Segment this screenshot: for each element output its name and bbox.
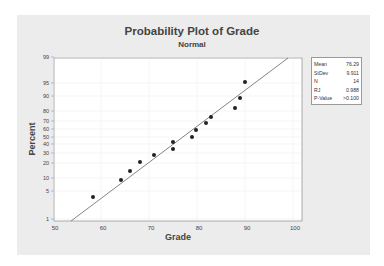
y-axis-ticks: 151020304050607080909599 (43, 54, 54, 222)
legend-row-n: N14 (314, 77, 359, 86)
data-point (152, 153, 156, 157)
x-axis-ticks: 5060708090100 (52, 225, 301, 231)
y-tick-label: 80 (43, 108, 49, 114)
legend-row-mean: Mean76.29 (314, 60, 359, 69)
x-tick-label: 70 (148, 225, 155, 231)
data-point (138, 160, 142, 164)
x-tick-label: 60 (100, 225, 107, 231)
x-tick-label: 90 (244, 225, 251, 231)
probability-plot: 151020304050607080909599 5060708090100 G… (0, 0, 384, 266)
y-tick-label: 10 (43, 175, 49, 181)
x-axis-label: Grade (165, 232, 191, 242)
y-tick-label: 40 (43, 141, 49, 147)
x-tick-label: 100 (290, 225, 301, 231)
data-point (171, 147, 175, 151)
x-tick-label: 80 (196, 225, 203, 231)
stats-legend: Mean76.29 StDev9.911 N14 RJ0.988 P-Value… (311, 57, 362, 105)
y-tick-label: 1 (46, 216, 49, 222)
data-point (128, 169, 132, 173)
y-axis-label: Percent (27, 122, 37, 155)
data-point (119, 178, 123, 182)
legend-row-rj: RJ0.988 (314, 86, 359, 95)
data-point (204, 121, 208, 125)
y-tick-label: 30 (43, 150, 49, 156)
y-tick-label: 5 (46, 188, 49, 194)
y-tick-label: 60 (43, 126, 49, 132)
y-tick-label: 20 (43, 160, 49, 166)
data-point (209, 115, 213, 119)
y-tick-label: 50 (43, 134, 49, 140)
data-point (233, 106, 237, 110)
data-point (190, 135, 194, 139)
x-tick-label: 50 (52, 225, 59, 231)
legend-row-pvalue: P-Value>0.100 (314, 94, 359, 103)
data-point (194, 128, 198, 132)
data-point (91, 195, 95, 199)
data-point (238, 96, 242, 100)
y-tick-label: 95 (43, 80, 49, 86)
y-tick-label: 99 (43, 54, 49, 60)
y-tick-label: 70 (43, 118, 49, 124)
y-tick-label: 90 (43, 93, 49, 99)
data-point (243, 80, 247, 84)
legend-row-stdev: StDev9.911 (314, 69, 359, 78)
data-point (171, 140, 175, 144)
